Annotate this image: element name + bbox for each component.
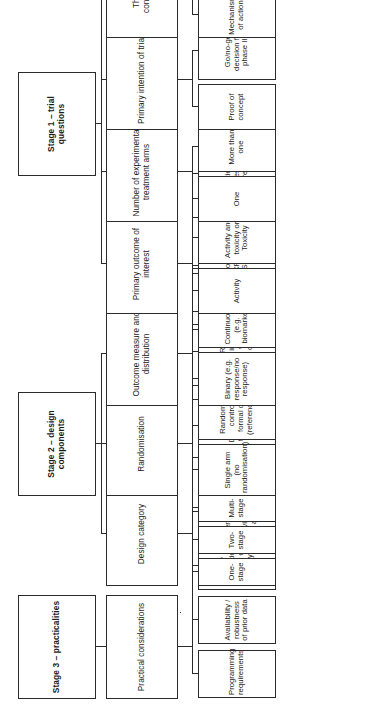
item-number-of-experimental-treatment-arms-0-label: One: [233, 179, 242, 219]
item-design-category-2: Multi-stage: [198, 494, 276, 522]
category-number-of-experimental-treatment-arms-label: Number of experimental treatment arms: [132, 125, 151, 219]
item-number-of-experimental-treatment-arms-0: One: [198, 176, 276, 222]
item-design-category-2-label: Multi-stage: [228, 497, 246, 519]
item-primary-intention-of-trial-0: Proof of concept: [198, 84, 276, 130]
diagram-canvas: Practical considerationsProgramming requ…: [0, 0, 387, 714]
category-practical-considerations-label: Practical considerations: [137, 598, 147, 696]
stage-stage-1-label: Stage 1 – trial questions: [47, 75, 67, 173]
item-outcome-measure-and-distribution-0-label: Binary (e.g. response/no response): [224, 355, 251, 403]
item-design-category-0: One-stage: [198, 558, 276, 586]
category-outcome-measure-and-distribution: Outcome measure and distribution: [106, 302, 178, 406]
category-therapeutic-considerations: Therapeutic considerations: [106, 0, 178, 38]
item-bus-join-primary-outcome-of-interest: [192, 238, 193, 291]
diagram-rotated-layer: Practical considerationsProgramming requ…: [0, 0, 387, 714]
item-design-category-0-label: One-stage: [228, 561, 246, 583]
item-outcome-measure-and-distribution-0: Binary (e.g. response/no response): [198, 352, 276, 406]
item-randomisation-0-label: Single arm (no randomisation): [224, 447, 251, 493]
category-stem-number-of-experimental-treatment-arms: [178, 171, 192, 172]
stage-stage-3-label: Stage 3 – practicalities: [52, 598, 62, 696]
item-practical-considerations-0-label: Programming requirements: [228, 653, 246, 695]
item-practical-considerations-1: Availability / robustness of prior data: [198, 596, 276, 644]
stage-stem-stage-1: [96, 123, 101, 124]
category-randomisation: Randomisation: [106, 392, 178, 496]
item-practical-considerations-0: Programming requirements: [198, 650, 276, 698]
item-bus-join-number-of-experimental-treatment-arms: [192, 147, 193, 199]
stage-stage-3: Stage 3 – practicalities: [18, 595, 96, 699]
item-design-category-1: Two-stage: [198, 526, 276, 554]
stage-stage-2: Stage 2 – design components: [18, 392, 96, 496]
item-primary-intention-of-trial-0-label: Proof of concept: [228, 87, 246, 127]
category-outcome-measure-and-distribution-label: Outcome measure and distribution: [132, 305, 151, 403]
category-primary-intention-of-trial-label: Primary intention of trial: [137, 33, 147, 127]
category-design-category: Design category: [106, 482, 178, 586]
category-number-of-experimental-treatment-arms: Number of experimental treatment arms: [106, 122, 178, 222]
category-stem-primary-intention-of-trial: [178, 79, 192, 80]
category-stem-primary-outcome-of-interest: [178, 263, 192, 264]
stage-stage-1: Stage 1 – trial questions: [18, 72, 96, 176]
stage-stage-2-label: Stage 2 – design components: [47, 395, 67, 493]
item-number-of-experimental-treatment-arms-1-label: More than one: [228, 125, 246, 169]
item-bus-join-therapeutic-considerations: [192, 0, 193, 15]
category-practical-considerations: Practical considerations: [106, 595, 178, 699]
item-primary-outcome-of-interest-0: Activity: [198, 268, 276, 314]
category-primary-intention-of-trial: Primary intention of trial: [106, 30, 178, 130]
item-therapeutic-considerations-0: Mechanism of action: [198, 0, 276, 38]
noop: [180, 612, 181, 613]
flowchart-board: Practical considerationsProgramming requ…: [0, 0, 387, 714]
item-design-category-1-label: Two-stage: [228, 529, 246, 551]
category-stem-design-category: [178, 533, 192, 534]
category-stem-randomisation: [178, 443, 192, 444]
category-primary-outcome-of-interest: Primary outcome of interest: [106, 214, 178, 314]
category-stem-practical-considerations: [178, 646, 192, 647]
category-therapeutic-considerations-label: Therapeutic considerations: [132, 0, 151, 35]
category-randomisation-label: Randomisation: [137, 395, 147, 493]
stage-spine-stage-2: [101, 354, 102, 534]
item-therapeutic-considerations-0-label: Mechanism of action: [228, 0, 246, 35]
category-design-category-label: Design category: [137, 485, 147, 583]
category-primary-outcome-of-interest-label: Primary outcome of interest: [132, 217, 151, 311]
item-primary-outcome-of-interest-0-label: Activity: [233, 271, 242, 311]
category-stem-outcome-measure-and-distribution: [178, 353, 192, 354]
item-randomisation-0: Single arm (no randomisation): [198, 444, 276, 496]
item-practical-considerations-1-label: Availability / robustness of prior data: [224, 599, 251, 641]
item-bus-join-primary-intention-of-trial: [192, 51, 193, 107]
stage-spine-stage-1: [101, 0, 102, 264]
